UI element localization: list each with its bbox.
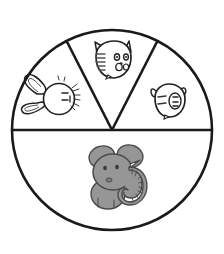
animal-spinner-wheel[interactable] <box>0 0 224 254</box>
elephant-icon <box>87 142 147 209</box>
spinner-wheel-canvas: Rabbit Cat Pig Elephant Animal Spinner W… <box>0 0 224 254</box>
